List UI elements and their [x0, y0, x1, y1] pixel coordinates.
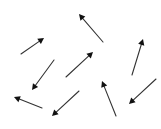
arrowhead-icon: [37, 38, 44, 44]
arrow-shaft: [56, 91, 79, 113]
arrow-9: [101, 81, 116, 116]
arrow-shaft: [66, 55, 89, 77]
arrow-8: [52, 91, 79, 116]
arrow-1: [21, 38, 44, 54]
arrow-4: [66, 52, 93, 77]
arrowhead-icon: [32, 83, 38, 90]
vector-field-diagram: [0, 0, 161, 129]
arrow-shaft: [104, 86, 116, 116]
arrow-shaft: [132, 44, 142, 75]
arrow-2: [79, 14, 103, 42]
arrow-shaft: [19, 99, 42, 108]
arrow-3: [32, 60, 54, 90]
arrow-6: [129, 79, 156, 104]
arrow-shaft: [133, 79, 156, 101]
arrow-5: [132, 39, 144, 75]
arrowhead-icon: [138, 39, 144, 46]
arrow-shaft: [21, 41, 40, 54]
arrow-shaft: [35, 60, 54, 86]
arrow-shaft: [82, 18, 103, 42]
arrow-canvas: [0, 0, 161, 129]
arrow-7: [14, 96, 42, 108]
